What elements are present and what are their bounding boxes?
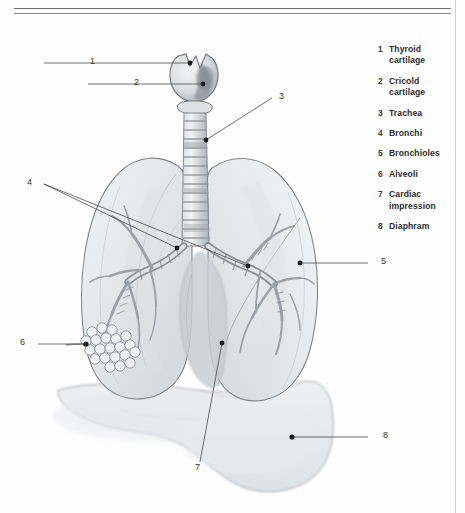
header-rule-upper	[14, 8, 451, 9]
callout-number-1: 1	[90, 56, 95, 66]
legend-item-5: 5 Bronchioles	[378, 148, 452, 159]
legend-number: 6	[378, 169, 389, 180]
legend-item-2: 2 Cricold cartilage	[378, 76, 452, 99]
legend-item-3: 3 Trachea	[378, 108, 452, 119]
dot-diaphragm	[289, 434, 294, 439]
legend-number: 4	[378, 128, 389, 139]
callout-number-8: 8	[383, 430, 388, 440]
legend-number: 1	[378, 44, 389, 55]
legend-item-6: 6 Alveoli	[378, 169, 452, 180]
page-margin-rule	[455, 0, 456, 513]
legend-item-7: 7 Cardiac impression	[378, 189, 452, 212]
legend-number: 5	[378, 148, 389, 159]
legend-number: 2	[378, 76, 389, 87]
legend-item-8: 8 Diaphram	[378, 221, 452, 232]
trachea	[182, 113, 209, 246]
callout-number-6: 6	[20, 337, 25, 347]
legend-label: Cardiac impression	[389, 189, 452, 212]
legend-label: Alveoli	[389, 169, 418, 180]
legend-item-1: 1 Thyroid cartilage	[378, 44, 452, 67]
legend-item-4: 4 Bronchi	[378, 128, 452, 139]
callout-number-3: 3	[279, 91, 284, 101]
legend-label: Thyroid cartilage	[389, 44, 452, 67]
legend-label: Bronchioles	[389, 148, 440, 159]
dot-bronchus-left	[175, 246, 180, 251]
dot-trachea	[204, 138, 209, 143]
legend-number: 3	[378, 108, 389, 119]
dot-alveoli	[83, 341, 88, 346]
legend-list: 1 Thyroid cartilage 2 Cricold cartilage …	[378, 44, 452, 241]
header-rule-lower	[14, 13, 451, 14]
respiratory-system-illustration	[0, 18, 372, 513]
dot-bronchus-right	[246, 264, 251, 269]
cricoid-cartilage	[178, 101, 213, 115]
dot-thyroid-cartilage	[188, 61, 193, 66]
callout-number-4: 4	[27, 177, 32, 187]
illustration-page: 1 2 3 4 5 6 7 8 1 Thyroid cartilage 2 Cr…	[0, 0, 465, 513]
legend-label: Trachea	[389, 108, 422, 119]
legend-label: Bronchi	[389, 128, 422, 139]
callout-number-7: 7	[195, 462, 200, 472]
legend-label: Diaphram	[389, 221, 429, 232]
callout-number-5: 5	[381, 256, 386, 266]
legend-number: 8	[378, 221, 389, 232]
legend-label: Cricold cartilage	[389, 76, 452, 99]
legend-number: 7	[378, 189, 389, 200]
dot-cricoid-cartilage	[201, 82, 206, 87]
dot-cardiac-impression	[220, 341, 225, 346]
dot-bronchioles	[298, 261, 303, 266]
callout-number-2: 2	[134, 77, 139, 87]
